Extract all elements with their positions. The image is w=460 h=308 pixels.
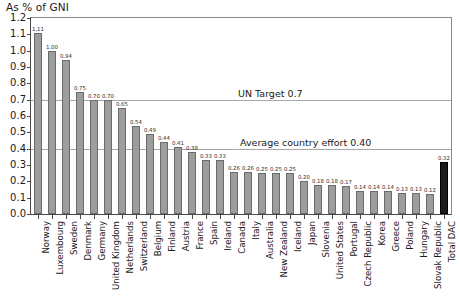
x-axis-tick-mark: [290, 215, 291, 219]
bar[interactable]: [62, 60, 71, 214]
x-axis-tick-label: Hungary: [419, 221, 429, 258]
bar-slot: 0.14: [384, 18, 393, 214]
y-axis-tick-label: 1.1: [0, 28, 26, 39]
bar[interactable]: [412, 193, 421, 214]
x-axis-tick-label: Ireland: [223, 221, 233, 251]
x-axis-tick-mark: [374, 215, 375, 219]
bar-slot: 0.26: [244, 18, 253, 214]
x-axis-tick-label: Sweden: [69, 221, 79, 255]
bar[interactable]: [90, 100, 99, 214]
bar-slot: 0.20: [300, 18, 309, 214]
x-axis-tick-label: Switzerland: [139, 221, 149, 271]
bar[interactable]: [272, 173, 281, 214]
x-axis-tick-label: Japan: [307, 221, 317, 245]
bar[interactable]: [230, 172, 239, 214]
bar[interactable]: [76, 92, 85, 215]
bar-slot: 0.65: [118, 18, 127, 214]
bar[interactable]: [314, 185, 323, 214]
bar[interactable]: [146, 134, 155, 214]
bar-value-label: 0.38: [186, 145, 198, 151]
bar-value-label: 0.25: [284, 166, 296, 172]
bar[interactable]: [244, 172, 253, 214]
bar-slot: 0.44: [160, 18, 169, 214]
y-axis-tick-label: 0.7: [0, 94, 26, 105]
x-axis-tick-label: Total DAC: [447, 221, 457, 262]
annotation-average-effort: Average country effort 0.40: [240, 137, 371, 148]
bar[interactable]: [160, 142, 169, 214]
bar-slot: 1.00: [48, 18, 57, 214]
bar-slot: 0.25: [286, 18, 295, 214]
x-axis-tick-mark: [360, 215, 361, 219]
x-axis-tick-label: Netherlands: [125, 221, 135, 273]
x-axis-tick-mark: [304, 215, 305, 219]
x-axis-tick-mark: [66, 215, 67, 219]
x-axis-tick-mark: [80, 215, 81, 219]
bar[interactable]: [384, 191, 393, 214]
bar[interactable]: [174, 147, 183, 214]
x-axis-tick-label: Slovenia: [321, 221, 331, 258]
bar-slot: 0.25: [272, 18, 281, 214]
bar[interactable]: [440, 162, 449, 214]
bar[interactable]: [342, 186, 351, 214]
bar-value-label: 0.14: [354, 184, 366, 190]
bar[interactable]: [328, 185, 337, 214]
bar[interactable]: [398, 193, 407, 214]
x-axis-tick-label: Italy: [251, 221, 261, 240]
x-axis-tick-mark: [234, 215, 235, 219]
bar[interactable]: [202, 160, 211, 214]
y-axis-tick-mark: [27, 214, 31, 215]
y-axis-tick-label: 0.0: [0, 208, 26, 219]
y-axis-tick-label: 1.0: [0, 45, 26, 56]
bar-slot: 0.17: [342, 18, 351, 214]
bar-value-label: 0.32: [438, 155, 450, 161]
bar-value-label: 0.14: [368, 184, 380, 190]
bar-value-label: 0.33: [214, 153, 226, 159]
bar[interactable]: [258, 173, 267, 214]
bar-value-label: 0.49: [144, 127, 156, 133]
bar[interactable]: [118, 108, 127, 214]
y-axis-tick-label: 0.2: [0, 175, 26, 186]
bar-slot: 0.94: [62, 18, 71, 214]
bar-value-label: 0.25: [256, 166, 268, 172]
y-axis-tick-label: 0.1: [0, 192, 26, 203]
x-axis: NorwayLuxembourgSwedenDenmarkGermanyUnit…: [31, 219, 451, 307]
x-axis-tick-label: Belgium: [153, 221, 163, 256]
bar[interactable]: [356, 191, 365, 214]
bar[interactable]: [188, 152, 197, 214]
chart-container: As % of GNI 0.00.10.20.30.40.50.60.70.80…: [0, 0, 460, 308]
y-axis-tick-label: 1.2: [0, 12, 26, 23]
annotation-un-target: UN Target 0.7: [238, 88, 303, 99]
bar-slot: 0.70: [104, 18, 113, 214]
x-axis-tick-mark: [192, 215, 193, 219]
bar[interactable]: [48, 51, 57, 214]
bar-value-label: 0.75: [74, 85, 86, 91]
x-axis-tick-label: Germany: [97, 221, 107, 261]
bar-slot: 0.14: [356, 18, 365, 214]
bar[interactable]: [370, 191, 379, 214]
x-axis-tick-mark: [430, 215, 431, 219]
bar-series: 1,111.000.940.750.700.700.650.540.490.44…: [31, 18, 451, 214]
x-axis-tick-label: Slovak Republic: [433, 221, 443, 289]
x-axis-tick-mark: [164, 215, 165, 219]
bar-slot: 0.14: [370, 18, 379, 214]
x-axis-tick-mark: [248, 215, 249, 219]
x-axis-tick-label: France: [195, 221, 205, 250]
bar[interactable]: [104, 100, 113, 214]
bar-slot: 0.38: [188, 18, 197, 214]
x-axis-tick-mark: [332, 215, 333, 219]
bar[interactable]: [34, 33, 43, 214]
bar[interactable]: [286, 173, 295, 214]
bar-value-label: 0.17: [340, 179, 352, 185]
x-axis-tick-mark: [178, 215, 179, 219]
bar[interactable]: [300, 181, 309, 214]
bar-slot: 0.12: [426, 18, 435, 214]
bar-slot: 0.18: [314, 18, 323, 214]
bar-slot: 0.25: [258, 18, 267, 214]
bar[interactable]: [132, 126, 141, 214]
bar[interactable]: [216, 160, 225, 214]
x-axis-tick-mark: [220, 215, 221, 219]
x-axis-tick-label: Austria: [181, 221, 191, 251]
y-axis-tick-label: 0.4: [0, 143, 26, 154]
bar-slot: 0.33: [202, 18, 211, 214]
bar[interactable]: [426, 194, 435, 214]
